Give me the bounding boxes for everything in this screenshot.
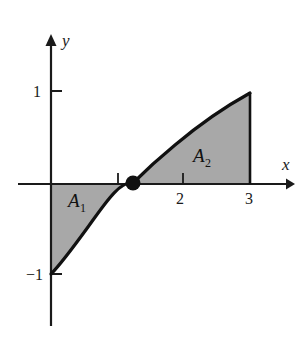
y-axis-arrowhead [46,34,57,46]
region-label-a2-subscript: 2 [205,156,211,170]
x-tick-label-3: 3 [245,191,253,207]
integral-area-figure: y x 1 −1 2 3 A1 A2 [0,0,301,342]
root-point-marker [126,176,141,191]
x-axis-label: x [282,156,290,173]
region-label-a2: A2 [193,146,211,169]
x-tick-label-2: 2 [176,191,184,207]
shaded-region-a2 [133,93,250,184]
region-label-a1: A1 [68,191,86,214]
region-label-a1-subscript: 1 [80,201,86,215]
region-label-a2-base: A [193,145,205,166]
plot-canvas [0,0,301,342]
x-axis-arrowhead [286,179,295,190]
region-label-a1-base: A [68,190,80,211]
y-tick-label-1: 1 [33,84,41,100]
y-axis-label: y [62,32,70,49]
y-tick-label-minus-1: −1 [26,267,43,283]
